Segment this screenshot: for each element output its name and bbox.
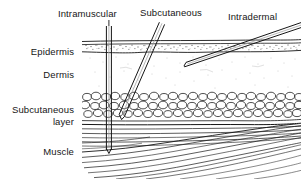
layer-label-subcutaneous-line1: Subcutaneous xyxy=(12,104,74,115)
route-label-subcutaneous: Subcutaneous xyxy=(140,7,202,18)
route-label-intramuscular: Intramuscular xyxy=(58,8,117,19)
route-label-intradermal: Intradermal xyxy=(228,11,277,22)
layer-label-dermis: Dermis xyxy=(43,69,74,80)
injection-routes-diagram: Intramuscular Subcutaneous Intradermal E… xyxy=(0,0,304,181)
layer-label-muscle: Muscle xyxy=(43,146,74,157)
subcutaneous-fat-cells xyxy=(80,92,303,117)
layer-label-subcutaneous-line2: layer xyxy=(53,116,74,127)
layer-label-epidermis: Epidermis xyxy=(31,46,74,57)
